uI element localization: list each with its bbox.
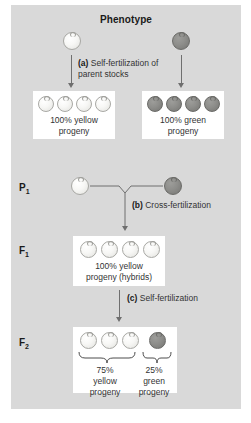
f1-self-fertilization-arrow-line	[119, 290, 120, 318]
f2-group-yellow-line2: yellow	[75, 376, 135, 387]
f1-progeny-box: 100% yellow progeny (hybrids)	[73, 236, 165, 286]
f2-group-yellow-line3: progeny	[75, 387, 135, 398]
f1-self-fertilization-arrow-head	[116, 317, 122, 322]
f2-group-green-percent: 25%	[131, 365, 177, 376]
step-c-caption: (c) Self-fertilization	[127, 293, 207, 304]
f2-group-green-line3: progeny	[131, 387, 177, 398]
pea-stem-icon	[108, 241, 114, 246]
step-b-text: Cross-fertilization	[145, 200, 211, 210]
f1-pea-yellow	[122, 241, 139, 258]
pea-stem-icon	[150, 241, 156, 246]
step-b-caption: (b) Cross-fertilization	[132, 200, 212, 211]
f2-group-green-line2: green	[131, 376, 177, 387]
f2-group-yellow-label: 75% yellow progeny	[75, 365, 135, 398]
generation-label-f1: F1	[19, 245, 29, 258]
f1-pea-yellow	[80, 241, 97, 258]
generation-label-f2-subscript: 2	[25, 343, 29, 350]
phenotype-figure-panel: Phenotype (a) Self-fertilization of pare…	[11, 5, 241, 409]
f2-progeny-box: 75% yellow progeny 25% green progeny	[73, 327, 177, 393]
cross-fertilization-arrow-head	[122, 226, 128, 231]
f2-group-green-label: 25% green progeny	[131, 365, 177, 398]
f1-pea-yellow	[143, 241, 160, 258]
step-b-marker: (b)	[132, 200, 143, 210]
f1-progeny-line1: 100% yellow	[73, 261, 165, 272]
step-c-marker: (c)	[127, 293, 137, 303]
f2-group-yellow-percent: 75%	[75, 365, 135, 376]
pea-stem-icon	[87, 241, 93, 246]
f1-pea-yellow	[101, 241, 118, 258]
f1-progeny-line2: progeny (hybrids)	[73, 272, 165, 283]
pea-stem-icon	[129, 241, 135, 246]
generation-label-f2: F2	[19, 337, 29, 350]
step-c-text: Self-fertilization	[140, 293, 198, 303]
generation-label-f1-subscript: 1	[25, 251, 29, 258]
